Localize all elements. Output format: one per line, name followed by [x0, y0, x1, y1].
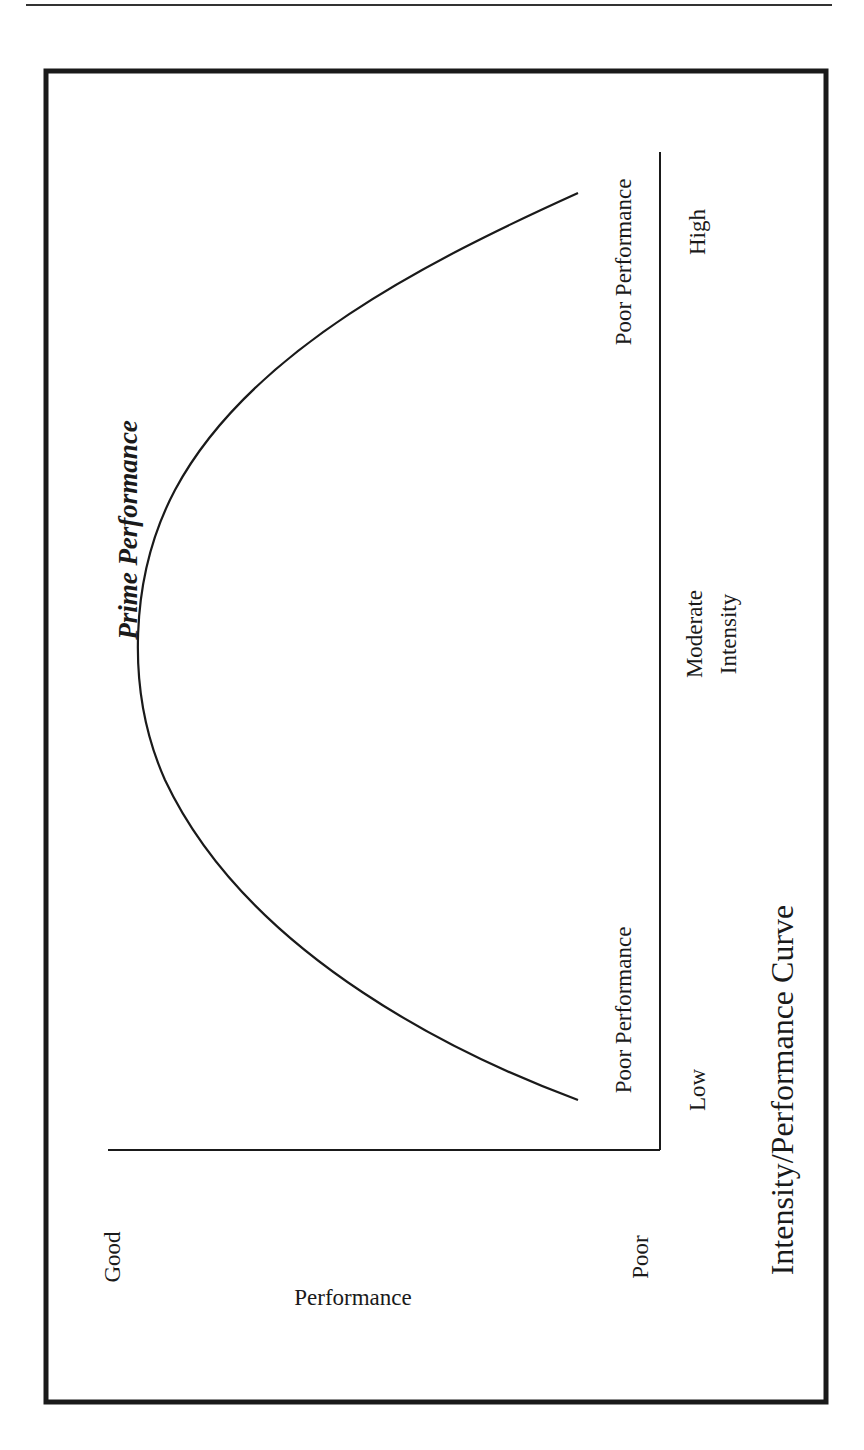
figure-frame: [46, 71, 826, 1402]
label-poor-performance-low: Poor Performance: [611, 927, 636, 1094]
tick-label-moderate: Moderate: [682, 590, 707, 678]
chart-title: Intensity/Performance Curve: [764, 905, 800, 1276]
tick-label-good: Good: [100, 1231, 125, 1283]
book-page: Poor Performance High Prime Performance …: [0, 0, 864, 1450]
inverted-u-curve: [138, 193, 578, 1100]
tick-label-high: High: [685, 209, 710, 256]
tick-label-poor: Poor: [628, 1235, 653, 1279]
label-poor-performance-high: Poor Performance: [611, 179, 636, 346]
label-prime-performance: Prime Performance: [113, 420, 143, 641]
intensity-performance-figure: Poor Performance High Prime Performance …: [0, 0, 864, 1450]
axis-label-performance: Performance: [294, 1285, 412, 1310]
tick-label-low: Low: [685, 1069, 710, 1112]
tick-label-intensity: Intensity: [716, 593, 741, 674]
